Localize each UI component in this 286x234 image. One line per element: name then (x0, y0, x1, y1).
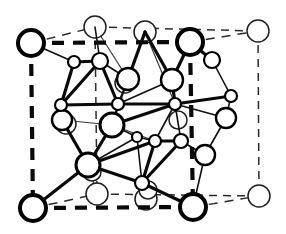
atom-small-cluster-br (112, 98, 124, 110)
atom-small-center (169, 98, 181, 110)
corner-top-right (177, 29, 203, 55)
crystal-structure-figure (0, 0, 286, 234)
corner-bottom-right (180, 194, 206, 220)
edge-top-front (31, 42, 190, 43)
edge-bottom-back (97, 194, 259, 196)
edge-bottom-front (33, 207, 193, 208)
atom-large-lower-left (76, 153, 100, 177)
crystal-structure-diagram (0, 0, 286, 234)
atom-mid-right-upper (216, 108, 236, 128)
bond-right-1 (175, 96, 231, 104)
corner-top-left (18, 30, 44, 56)
atom-mid-right-top (204, 52, 220, 68)
back-corner-top-right (247, 20, 269, 42)
atom-mid-right-lower (195, 145, 215, 165)
bond-cluster-tl-5 (61, 104, 118, 105)
atom-large-upper-mid (117, 68, 139, 90)
atom-large-upper-right (161, 69, 183, 91)
edge-right-back (258, 31, 259, 196)
atom-large-center-left (100, 113, 124, 137)
corner-bottom-left (20, 195, 46, 221)
atom-small-right-cluster (225, 90, 237, 102)
atom-mid-left (52, 110, 72, 130)
atom-small-cluster-bl (55, 99, 67, 111)
atom-small-lower-center-a (149, 135, 161, 147)
atom-large-upper-left-cluster (92, 53, 108, 69)
atom-small-cluster-tl (68, 56, 80, 68)
atom-small-bottom-center (135, 176, 149, 190)
background-atoms (56, 16, 270, 210)
back-corner-bottom-right (248, 185, 270, 207)
atom-small-center-dot (132, 132, 142, 142)
foreground-atoms (52, 52, 237, 190)
edge-top-back (95, 27, 258, 31)
edge-right-front (190, 42, 193, 207)
back-corner-bottom-left (86, 183, 108, 205)
edge-left-front (31, 43, 33, 208)
atom-small-lower-center-b (174, 134, 188, 148)
